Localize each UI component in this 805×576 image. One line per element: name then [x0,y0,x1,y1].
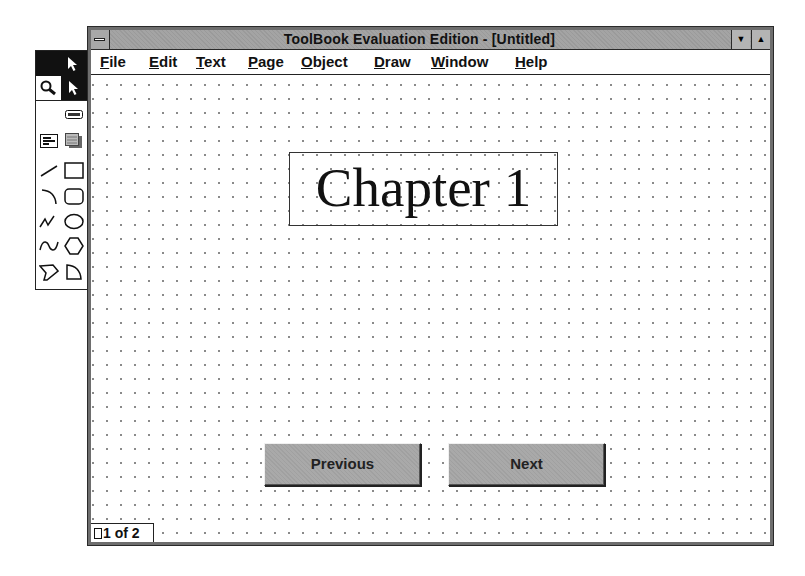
angled-line-tool-icon[interactable] [38,210,60,232]
window-title: ToolBook Evaluation Edition - [Untitled] [109,30,730,49]
field-tool-icon[interactable] [38,131,60,151]
selection-arrow-icon[interactable] [62,53,84,74]
next-button[interactable]: Next [448,443,605,486]
minimize-icon: ▼ [737,34,746,44]
curve-tool-icon[interactable] [38,235,60,257]
menu-window[interactable]: Window [431,53,488,70]
menu-page[interactable]: Page [248,53,284,70]
irregular-polygon-tool-icon[interactable] [38,261,60,283]
system-menu-icon [94,38,105,41]
previous-button[interactable]: Previous [264,443,421,486]
menu-object[interactable]: Object [301,53,348,70]
menu-text[interactable]: Text [196,53,226,70]
rounded-rectangle-tool-icon[interactable] [62,185,86,207]
minimize-button[interactable]: ▼ [731,30,750,49]
menu-draw[interactable]: Draw [374,53,411,70]
menu-bar: File Edit Text Page Object Draw Window H… [91,50,770,75]
pie-tool-icon[interactable] [62,261,86,283]
page-icon [94,528,102,539]
toolbook-window: ToolBook Evaluation Edition - [Untitled]… [88,27,773,545]
record-field-tool-icon[interactable] [63,131,85,151]
page-indicator[interactable]: 1 of 2 [91,523,154,542]
menu-help[interactable]: Help [515,53,548,70]
arc-tool-icon[interactable] [38,185,60,207]
menu-file[interactable]: File [100,53,126,70]
chapter-heading-field[interactable]: Chapter 1 [289,152,558,226]
zoom-magnifier-icon[interactable] [36,76,61,100]
menu-edit[interactable]: Edit [149,53,177,70]
maximize-icon: ▲ [757,34,766,44]
button-tool-icon[interactable] [63,108,85,120]
tool-palette [35,50,88,290]
reader-arrow-icon[interactable] [61,76,87,100]
palette-select-area[interactable] [36,51,87,76]
maximize-button[interactable]: ▲ [751,30,770,49]
ellipse-tool-icon[interactable] [62,210,86,232]
page-number: 1 of 2 [103,525,140,541]
rectangle-tool-icon[interactable] [62,159,86,181]
title-bar[interactable]: ToolBook Evaluation Edition - [Untitled]… [91,30,770,50]
polygon-tool-icon[interactable] [62,235,86,257]
page-canvas[interactable]: Chapter 1 Previous Next 1 of 2 [91,75,770,542]
line-tool-icon[interactable] [38,159,60,181]
system-menu-button[interactable] [91,30,110,49]
